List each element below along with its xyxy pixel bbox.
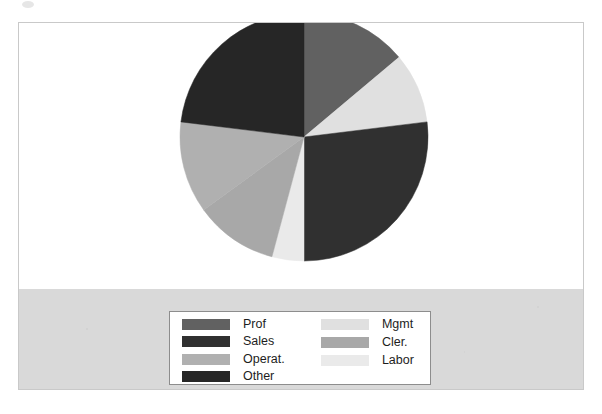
legend-swatch-operat [182,354,230,365]
legend-item-prof: Prof [182,317,321,332]
legend-swatch-labor [321,355,369,366]
legend-item-cler: Cler. [321,335,430,350]
legend-item-operat: Operat. [182,352,321,367]
legend-swatch-other [182,371,230,382]
legend-swatch-sales [182,336,230,347]
legend-label-other: Other [243,370,274,383]
legend-item-mgmt: Mgmt [321,317,430,332]
scan-smudge [22,1,34,8]
legend-swatch-prof [182,319,230,330]
legend-label-sales: Sales [243,335,274,348]
legend-swatch-mgmt [321,319,369,330]
legend-columns: Prof Sales Operat. Other [170,317,430,384]
legend-item-labor: Labor [321,353,430,368]
legend-item-other: Other [182,370,321,385]
legend-item-sales: Sales [182,335,321,350]
pie-slice-group [180,22,428,261]
pie-slice-other [181,22,304,137]
legend-label-operat: Operat. [243,353,285,366]
legend-column-right: Mgmt Cler. Labor [321,317,430,384]
pie-chart [178,22,430,263]
legend-label-labor: Labor [382,354,414,367]
figure-frame: Prof Sales Operat. Other [18,22,584,390]
legend-label-mgmt: Mgmt [382,318,413,331]
chart-plot-area [19,23,583,289]
pie-slice-sales [304,122,428,261]
legend-label-prof: Prof [243,318,266,331]
legend-band: Prof Sales Operat. Other [19,289,583,389]
legend-column-left: Prof Sales Operat. Other [170,317,321,384]
pie-chart-svg [178,22,430,263]
chart-legend: Prof Sales Operat. Other [169,311,431,385]
legend-label-cler: Cler. [382,336,408,349]
legend-swatch-cler [321,337,369,348]
